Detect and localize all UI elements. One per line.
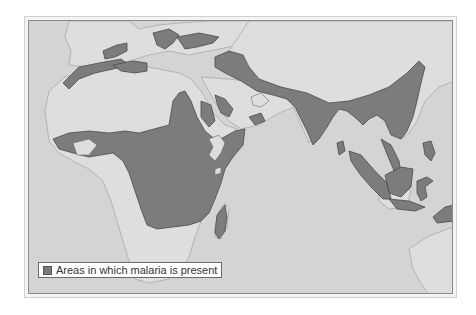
world-map <box>28 20 453 294</box>
map-graphic <box>29 21 453 294</box>
malaria-swatch-icon <box>43 266 52 275</box>
legend-label: Areas in which malaria is present <box>56 264 217 276</box>
map-legend: Areas in which malaria is present <box>38 262 222 278</box>
